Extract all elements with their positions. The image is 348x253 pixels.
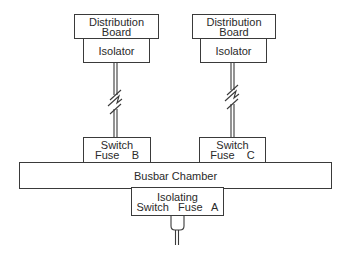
switch-fuse-c: Switch Fuse C: [199, 137, 266, 163]
label: Distribution: [89, 17, 144, 27]
busbar-chamber: Busbar Chamber: [19, 162, 332, 189]
label: Isolator: [98, 46, 134, 56]
label: Isolating: [157, 192, 198, 202]
label: Isolator: [215, 46, 251, 56]
isolator-right: Isolator: [200, 38, 267, 63]
label: Distribution: [206, 17, 261, 27]
label: Fuse B: [95, 150, 139, 160]
label: Board: [219, 27, 248, 37]
distribution-board-left: Distribution Board: [74, 14, 159, 39]
label: Fuse C: [210, 150, 255, 160]
label: Switch Fuse A: [137, 202, 219, 212]
switch-fuse-b: Switch Fuse B: [83, 137, 151, 163]
label: Busbar Chamber: [134, 171, 217, 181]
isolator-left: Isolator: [83, 38, 150, 63]
label: Board: [102, 27, 131, 37]
distribution-board-right: Distribution Board: [192, 14, 276, 39]
isolating-switch-fuse-a: Isolating Switch Fuse A: [131, 187, 224, 216]
